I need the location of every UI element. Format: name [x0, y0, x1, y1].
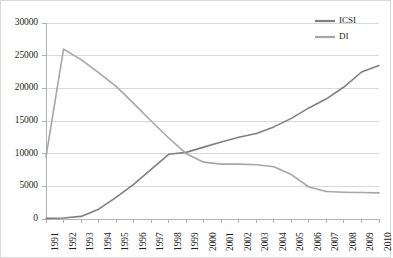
- x-axis-tick-label: 2010: [383, 232, 393, 251]
- y-axis-tick-label: 10000: [1, 148, 38, 158]
- x-axis-tick-label: 1994: [103, 232, 113, 251]
- x-axis-tick-label: 1995: [120, 232, 130, 251]
- x-axis-tick-label: 1996: [138, 232, 148, 251]
- y-axis-tick-label: 20000: [1, 82, 38, 92]
- x-axis-tick-label: 2008: [348, 232, 358, 251]
- x-axis-tick-label: 2004: [278, 232, 288, 251]
- x-axis-tick-label: 2006: [313, 232, 323, 251]
- x-axis-tick-label: 2009: [365, 232, 375, 251]
- plot-area: [1, 1, 392, 258]
- x-axis-ticks: [46, 219, 379, 223]
- x-axis-tick-label: 1999: [190, 232, 200, 251]
- legend-item-icsi: ICSI: [339, 15, 356, 25]
- x-axis-tick-label: 1991: [50, 232, 60, 251]
- y-axis-tick-label: 0: [1, 213, 38, 223]
- data-series: [46, 49, 379, 218]
- x-axis-tick-label: 2001: [225, 232, 235, 251]
- x-axis-tick-label: 1998: [173, 232, 183, 251]
- x-axis-tick-label: 1993: [85, 232, 95, 251]
- gridlines: [46, 23, 379, 186]
- x-axis-tick-label: 1992: [68, 232, 78, 251]
- y-axis-tick-label: 25000: [1, 50, 38, 60]
- x-axis-tick-label: 2002: [243, 232, 253, 251]
- y-axis-tick-label: 5000: [1, 180, 38, 190]
- legend-item-di: DI: [339, 31, 349, 41]
- x-axis-tick-label: 1997: [155, 232, 165, 251]
- y-axis-tick-label: 30000: [1, 17, 38, 27]
- y-axis-tick-label: 15000: [1, 115, 38, 125]
- x-axis-tick-label: 2003: [260, 232, 270, 251]
- y-axis-ticks: [42, 23, 46, 219]
- x-axis-tick-label: 2000: [208, 232, 218, 251]
- x-axis-tick-label: 2007: [330, 232, 340, 251]
- x-axis-tick-label: 2005: [295, 232, 305, 251]
